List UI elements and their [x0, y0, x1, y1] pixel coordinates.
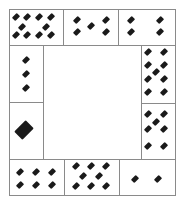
- card-bottom-right: [119, 159, 176, 196]
- card-top-right: [118, 9, 176, 46]
- card-bottom-left: [9, 159, 65, 196]
